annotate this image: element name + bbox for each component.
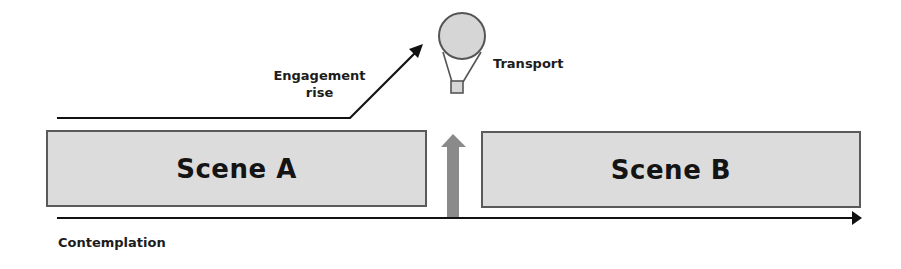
scene-a-box: Scene A	[46, 130, 427, 207]
scene-a-label: Scene A	[176, 154, 297, 184]
scene-b-box: Scene B	[481, 131, 861, 208]
engagement-label-line2: rise	[262, 84, 377, 101]
axis-arrowhead-icon	[852, 211, 862, 225]
contemplation-label: Contemplation	[58, 234, 166, 251]
up-arrow-icon	[441, 134, 466, 218]
transport-label: Transport	[493, 55, 563, 72]
engagement-label-line1: Engagement	[262, 67, 377, 84]
hot-air-balloon-icon	[439, 13, 485, 93]
scene-b-label: Scene B	[611, 155, 731, 185]
engagement-rise-label: Engagement rise	[262, 67, 377, 101]
